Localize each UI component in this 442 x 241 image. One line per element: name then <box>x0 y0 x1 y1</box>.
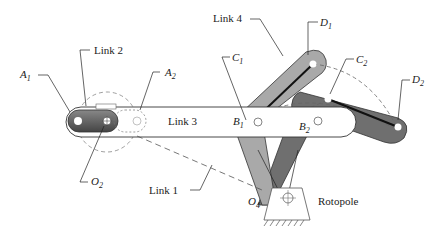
label-rotopole: Rotopole <box>318 195 358 207</box>
joint-b2 <box>314 117 322 125</box>
mechanism-diagram: Link 2 A1 A2 Link 3 O2 Link 1 Link 4 D1 … <box>0 0 442 241</box>
label-link4: Link 4 <box>213 12 243 24</box>
label-d1: D1 <box>319 16 332 31</box>
ground-o4-rotopole <box>264 188 310 226</box>
label-o4: O4 <box>248 195 260 210</box>
label-a2: A2 <box>164 66 176 81</box>
label-o2: O2 <box>91 175 103 190</box>
joint-c1 <box>245 123 252 130</box>
joint-d1 <box>310 61 317 68</box>
label-c2: C2 <box>356 53 367 68</box>
joint-c2 <box>325 96 332 103</box>
label-a1: A1 <box>19 68 31 83</box>
label-link3: Link 3 <box>168 115 198 127</box>
label-link1: Link 1 <box>149 184 178 196</box>
label-c1: C1 <box>232 51 243 66</box>
joint-b1 <box>254 118 262 126</box>
label-d2: D2 <box>411 73 424 88</box>
joint-d2 <box>395 124 402 131</box>
label-link2: Link 2 <box>94 44 123 56</box>
